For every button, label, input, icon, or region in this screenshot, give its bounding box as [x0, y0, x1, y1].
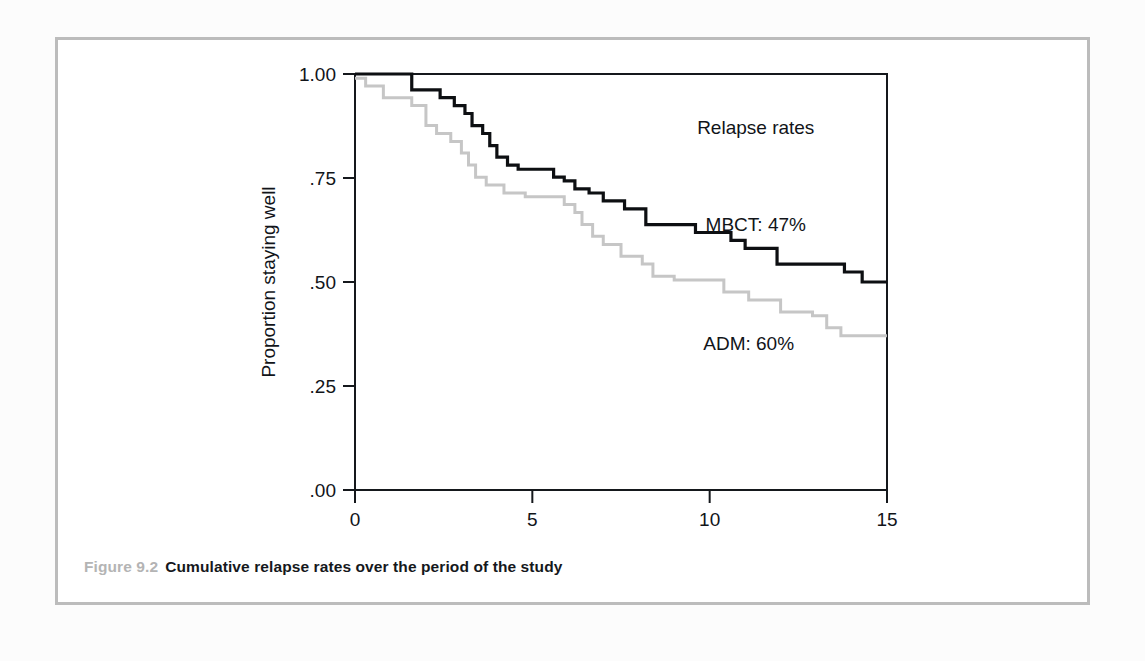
figure-caption: Figure 9.2Cumulative relapse rates over … — [84, 558, 562, 576]
figure-caption-text: Cumulative relapse rates over the period… — [165, 558, 562, 575]
y-tick-label: .25 — [310, 376, 336, 397]
y-tick-label: .75 — [310, 168, 336, 189]
x-tick-label: 15 — [876, 509, 897, 530]
x-tick-label: 5 — [527, 509, 538, 530]
figure-number: Figure 9.2 — [84, 558, 158, 575]
mbct-label: MBCT: 47% — [706, 214, 806, 235]
y-tick-label: .00 — [310, 480, 336, 501]
legend-title: Relapse rates — [697, 117, 814, 138]
figure-container: .00.25.50.751.00051015Analysis time (in … — [55, 37, 1090, 605]
x-tick-label: 0 — [350, 509, 361, 530]
y-axis-title: Proportion staying well — [258, 186, 279, 377]
adm-label: ADM: 60% — [703, 333, 794, 354]
plot-area: .00.25.50.751.00051015Analysis time (in … — [58, 40, 1093, 540]
survival-curve-chart: .00.25.50.751.00051015Analysis time (in … — [58, 40, 1093, 540]
x-tick-label: 10 — [699, 509, 720, 530]
y-axis-title-group: Proportion staying well — [258, 186, 279, 377]
y-tick-label: .50 — [310, 272, 336, 293]
y-tick-label: 1.00 — [299, 64, 336, 85]
